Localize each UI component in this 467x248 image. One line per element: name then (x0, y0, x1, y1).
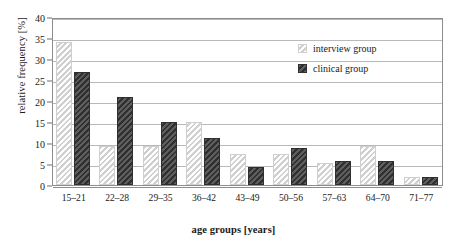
y-tick-label-15: 15 (35, 118, 45, 129)
bar-clinical-group (422, 177, 438, 185)
bar-interview-group (404, 177, 420, 185)
gridline-0 (53, 187, 442, 188)
y-tick-label-35: 35 (35, 34, 45, 45)
x-tick-label: 29–35 (149, 192, 173, 203)
x-tick-label: 36–42 (192, 192, 216, 203)
x-axis-ticks: 15–2122–2829–3536–4243–4950–5657–6364–70… (52, 192, 443, 210)
bar-clinical-group (117, 97, 133, 185)
y-tick-label-5: 5 (40, 160, 45, 171)
bar-group (401, 19, 444, 185)
x-tick-label: 57–63 (322, 192, 346, 203)
bar-interview-group (56, 42, 72, 185)
legend-item-interview-group: interview group (298, 43, 377, 54)
y-tick-label-30: 30 (35, 55, 45, 66)
bar-clinical-group (248, 167, 264, 185)
bar-series-container (53, 19, 442, 185)
x-axis-title: age groups [years] (0, 224, 467, 235)
chart-figure: relative frequency [%] 0510152025303540 … (0, 0, 467, 248)
bar-group (140, 19, 183, 185)
bar-interview-group (317, 163, 333, 185)
x-tick-label: 50–56 (279, 192, 303, 203)
bar-interview-group (186, 122, 202, 185)
y-tick-label-0: 0 (40, 181, 45, 192)
bar-clinical-group (335, 161, 351, 185)
legend-label-clinical-group: clinical group (313, 63, 368, 74)
bar-group (96, 19, 139, 185)
bar-clinical-group (74, 72, 90, 185)
bar-clinical-group (291, 148, 307, 185)
y-tick-label-40: 40 (35, 13, 45, 24)
bar-group (227, 19, 270, 185)
bar-interview-group (360, 146, 376, 185)
legend-swatch-clinical-group (298, 64, 307, 73)
legend-label-interview-group: interview group (313, 43, 377, 54)
bar-interview-group (99, 146, 115, 185)
plot-area: interview group clinical group (52, 18, 443, 186)
bar-clinical-group (204, 138, 220, 185)
y-tick-label-10: 10 (35, 139, 45, 150)
x-tick-label: 22–28 (105, 192, 129, 203)
bar-group (53, 19, 96, 185)
bar-group (183, 19, 226, 185)
legend-item-clinical-group: clinical group (298, 63, 377, 74)
x-tick-label: 15–21 (62, 192, 86, 203)
bar-clinical-group (378, 161, 394, 185)
y-tick-label-20: 20 (35, 97, 45, 108)
legend-swatch-interview-group (298, 44, 307, 53)
y-axis-ticks: 0510152025303540 (0, 18, 52, 186)
bar-clinical-group (161, 122, 177, 185)
bar-interview-group (143, 146, 159, 185)
legend: interview group clinical group (298, 43, 377, 83)
bar-interview-group (273, 154, 289, 185)
x-tick-label: 71–77 (409, 192, 433, 203)
y-tick-label-25: 25 (35, 76, 45, 87)
x-tick-label: 43–49 (236, 192, 260, 203)
bar-interview-group (230, 154, 246, 185)
x-tick-label: 64–70 (366, 192, 390, 203)
